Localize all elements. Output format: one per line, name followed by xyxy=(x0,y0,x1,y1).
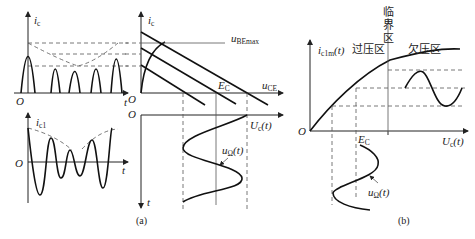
fundamental-origin: O xyxy=(15,157,23,169)
char-x-label: uCE xyxy=(262,79,278,93)
region-over-label: 过压区 xyxy=(352,43,385,56)
caption-b: (b) xyxy=(398,215,410,227)
b-origin: O xyxy=(298,125,306,137)
pulse-origin: O xyxy=(16,95,24,107)
region-critical-3: 区 xyxy=(383,32,394,45)
input-y-label: t xyxy=(147,196,151,208)
char-origin: O xyxy=(128,93,136,105)
fundamental-y-label: ic1 xyxy=(36,116,46,130)
fundamental-plot: ic1 O t xyxy=(15,113,128,203)
input-wave xyxy=(183,115,247,202)
diagram-canvas: ic O t ic1 O t ic uBEmax EC uCE O xyxy=(0,0,475,239)
caption-a: (a) xyxy=(136,215,147,227)
pulse-plot: ic O t xyxy=(14,12,128,108)
char-y-label: ic xyxy=(148,14,155,28)
ubemax-label: uBEmax xyxy=(231,32,259,46)
current-pulses xyxy=(21,57,122,94)
b-wave-label: uΩ(t) xyxy=(368,186,390,200)
b-ec-label: EC xyxy=(357,133,370,147)
region-critical-2: 界 xyxy=(383,19,394,32)
region-critical-1: 临 xyxy=(383,5,394,19)
panel-b: ic1m(t) 过压区 临 界 区 欠压区 O EC Uc(t) uΩ(t) (… xyxy=(298,5,468,227)
region-under-label: 欠压区 xyxy=(408,42,441,56)
ic1m-curve xyxy=(310,49,460,131)
input-plot: uΩ(t) Uc(t) t O (a) xyxy=(128,93,283,227)
fundamental-x-label: t xyxy=(122,164,126,176)
characteristic-plot: ic uBEmax EC uCE O xyxy=(125,12,283,105)
load-line-3 xyxy=(141,65,205,105)
b-x-label: Uc(t) xyxy=(442,135,464,149)
pulse-y-label: ic xyxy=(34,14,41,28)
input-x-label: Uc(t) xyxy=(250,119,272,133)
b-y-label: ic1m(t) xyxy=(318,44,345,58)
input-origin: O xyxy=(128,108,136,120)
input-wave-label: uΩ(t) xyxy=(222,144,244,158)
b-output-wave xyxy=(405,71,462,106)
